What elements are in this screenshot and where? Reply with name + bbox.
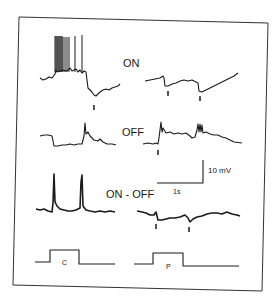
on-right-trace [145, 73, 238, 101]
stimulus-p: P [134, 253, 239, 270]
stimulus-label-p: P [166, 263, 171, 270]
off-left-trace [40, 123, 116, 146]
scale-time-label: 1s [173, 188, 181, 195]
on-off-left-trace [36, 174, 115, 212]
scale-bar: 10 mV 1s [157, 160, 232, 195]
on-left-trace [40, 35, 120, 110]
stimulus-label-c: C [62, 259, 67, 266]
row-label-on: ON [123, 57, 140, 69]
figure-canvas: ON OFF 10 mV 1s ON - OFF C P [0, 0, 277, 303]
row-label-off: OFF [122, 126, 144, 138]
scale-voltage-label: 10 mV [208, 166, 232, 175]
stimulus-c: C [35, 250, 115, 266]
row-label-on-off: ON - OFF [106, 188, 155, 200]
on-off-right-trace [137, 211, 240, 232]
off-right-trace [143, 122, 242, 155]
